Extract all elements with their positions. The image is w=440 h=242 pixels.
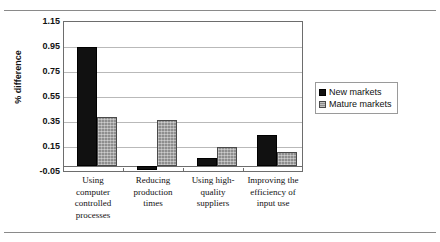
bar-new-markets xyxy=(257,135,277,166)
legend-label: New markets xyxy=(329,87,382,97)
x-axis-category-labels: Using computer controlled processes Redu… xyxy=(63,175,303,237)
label-line: computer xyxy=(64,187,122,199)
bar-group-using-high-quality-suppliers xyxy=(184,22,244,171)
bar-mature-markets xyxy=(277,152,297,166)
legend-item-new-markets: New markets xyxy=(319,86,392,98)
label-line: input use xyxy=(244,198,302,210)
y-tick-label: 0.15 xyxy=(42,142,60,151)
black-square-icon xyxy=(319,89,326,96)
y-tick-label: 0.95 xyxy=(42,42,60,51)
x-axis-label-2: Using high- quality suppliers xyxy=(183,175,243,237)
bar-new-markets xyxy=(137,166,157,170)
legend-label: Mature markets xyxy=(329,99,392,109)
label-line: times xyxy=(124,198,182,210)
y-tick-label: -0.05 xyxy=(39,167,60,176)
bar-new-markets xyxy=(197,158,217,166)
y-tick-label: 1.15 xyxy=(42,17,60,26)
bar-group-improving-the-efficiency-of-input-use xyxy=(244,22,304,171)
plot-area xyxy=(63,21,303,172)
top-divider-rule xyxy=(4,10,436,11)
bar-group-using-computer-controlled-processes xyxy=(64,22,124,171)
hatched-square-icon xyxy=(319,101,326,108)
bar-mature-markets xyxy=(97,117,117,166)
legend-item-mature-markets: Mature markets xyxy=(319,98,392,110)
label-line: production xyxy=(124,187,182,199)
label-line: Reducing xyxy=(124,175,182,187)
label-line: Using xyxy=(64,175,122,187)
bar-group-reducing-production-times xyxy=(124,22,184,171)
bar-mature-markets xyxy=(157,120,177,166)
label-line: quality xyxy=(184,187,242,199)
y-axis-tick-labels: 1.15 0.95 0.75 0.55 0.35 0.15 -0.05 xyxy=(20,14,60,180)
label-line: Using high- xyxy=(184,175,242,187)
label-line: efficiency of xyxy=(244,187,302,199)
x-axis-label-0: Using computer controlled processes xyxy=(63,175,123,237)
chart-legend: New markets Mature markets xyxy=(315,82,398,114)
label-line: Improving the xyxy=(244,175,302,187)
y-tick-label: 0.35 xyxy=(42,117,60,126)
bar-new-markets xyxy=(77,47,97,166)
x-axis-label-1: Reducing production times xyxy=(123,175,183,237)
label-line: suppliers xyxy=(184,198,242,210)
label-line: processes xyxy=(64,210,122,222)
bar-mature-markets xyxy=(217,147,237,166)
y-tick-label: 0.75 xyxy=(42,67,60,76)
y-tick-label: 0.55 xyxy=(42,92,60,101)
chart-figure: % difference 1.15 0.95 0.75 0.55 0.35 0.… xyxy=(0,0,440,242)
x-axis-label-3: Improving the efficiency of input use xyxy=(243,175,303,237)
label-line: controlled xyxy=(64,198,122,210)
